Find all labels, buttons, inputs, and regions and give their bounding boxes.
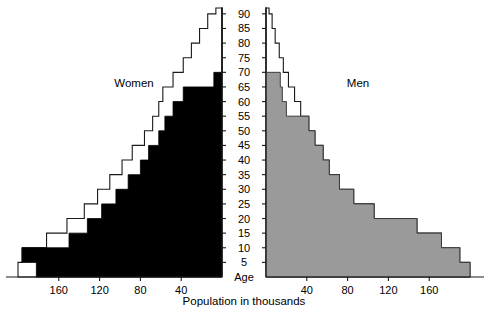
x-tick-label-right: 120: [379, 284, 397, 296]
pyramid-plot-area: 51015202530354045505560657075808590Age16…: [0, 0, 489, 315]
age-tick-label: 15: [238, 227, 250, 239]
age-tick-label: 10: [238, 242, 250, 254]
age-tick-label: 60: [238, 96, 250, 108]
age-tick-label: 20: [238, 213, 250, 225]
age-tick-label: 80: [238, 37, 250, 49]
series-label-women: Women: [114, 77, 153, 89]
age-tick-label: 55: [238, 110, 250, 122]
x-tick-label-right: 160: [420, 284, 438, 296]
pyramid-fill-men: [266, 8, 470, 277]
series-label-men: Men: [347, 77, 369, 89]
age-tick-label: 90: [238, 8, 250, 20]
age-tick-label: 75: [238, 52, 250, 64]
x-tick-label-left: 80: [134, 284, 146, 296]
age-tick-label: 65: [238, 81, 250, 93]
population-pyramid-chart: 51015202530354045505560657075808590Age16…: [0, 0, 489, 315]
age-tick-label: 50: [238, 125, 250, 137]
x-tick-label-left: 120: [90, 284, 108, 296]
age-tick-label: 5: [241, 256, 247, 268]
age-tick-label: 85: [238, 22, 250, 34]
age-tick-label: 30: [238, 183, 250, 195]
x-tick-label-right: 80: [341, 284, 353, 296]
age-tick-label: 45: [238, 139, 250, 151]
age-tick-label: 35: [238, 169, 250, 181]
age-axis-label: Age: [234, 271, 254, 283]
age-tick-label: 70: [238, 66, 250, 78]
age-tick-label: 40: [238, 154, 250, 166]
x-tick-label-left: 160: [50, 284, 68, 296]
age-tick-label: 25: [238, 198, 250, 210]
x-axis-title: Population in thousands: [183, 295, 306, 307]
